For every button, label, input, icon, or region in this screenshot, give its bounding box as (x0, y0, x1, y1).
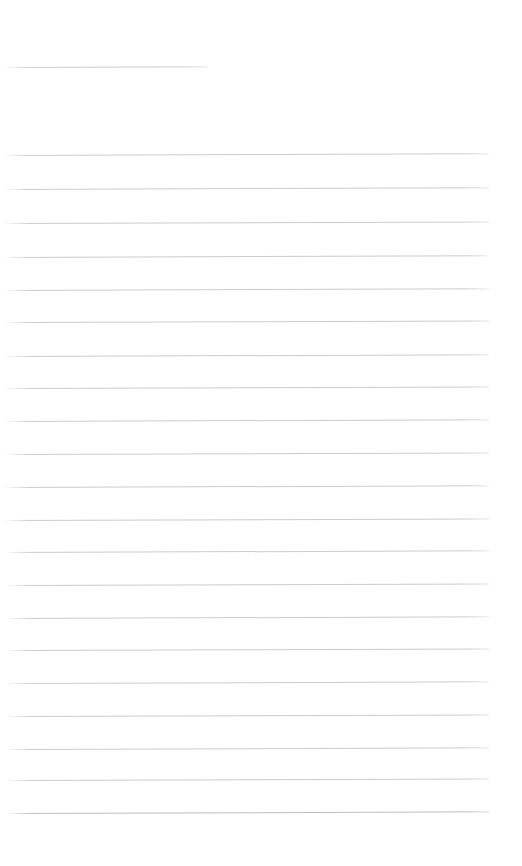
body-rule-9 (4, 419, 489, 422)
header-rule (4, 66, 208, 68)
body-rule-18 (6, 714, 489, 717)
body-rule-12 (4, 518, 489, 521)
body-rule-4 (3, 255, 489, 258)
body-rule-1 (3, 153, 489, 156)
body-rule-13 (5, 550, 489, 553)
scanned-page (0, 0, 522, 866)
body-rule-6 (4, 320, 489, 323)
body-rule-16 (5, 648, 489, 651)
body-rule-17 (6, 681, 489, 684)
body-rule-8 (4, 386, 489, 389)
body-rule-14 (5, 583, 489, 586)
body-rule-3 (3, 221, 489, 224)
body-rule-20 (6, 778, 489, 781)
body-rule-21 (6, 811, 490, 814)
body-rule-7 (4, 354, 489, 357)
body-rule-2 (3, 187, 489, 190)
ruled-line-area (0, 0, 522, 866)
body-rule-19 (6, 747, 489, 750)
body-rule-11 (4, 485, 489, 488)
body-rule-5 (3, 288, 489, 291)
body-rule-15 (5, 616, 489, 619)
body-rule-10 (4, 452, 489, 455)
